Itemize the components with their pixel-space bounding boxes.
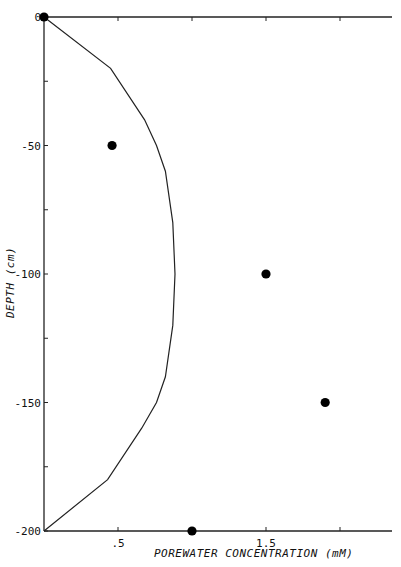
model-polyline	[44, 17, 175, 531]
y-tick-label: -100	[15, 268, 42, 281]
x-tick-label: .5	[111, 537, 124, 550]
data-point-marker	[107, 141, 116, 150]
y-axis-title: DEPTH (cm)	[4, 247, 17, 319]
data-point-marker	[39, 12, 48, 21]
data-point-marker	[321, 398, 330, 407]
axis-ticks	[44, 17, 340, 531]
x-axis-title: POREWATER CONCENTRATION (mM)	[154, 547, 353, 560]
axes	[44, 17, 392, 531]
model-curve	[44, 17, 175, 531]
data-points	[39, 12, 329, 535]
y-tick-label: -50	[21, 140, 41, 153]
y-tick-label: -200	[15, 525, 42, 538]
tick-labels: .51.50-50-100-150-200	[15, 11, 276, 550]
depth-profile-chart: .51.50-50-100-150-200 POREWATER CONCENTR…	[0, 0, 401, 567]
data-point-marker	[261, 269, 270, 278]
data-point-marker	[187, 526, 196, 535]
y-tick-label: -150	[15, 397, 42, 410]
